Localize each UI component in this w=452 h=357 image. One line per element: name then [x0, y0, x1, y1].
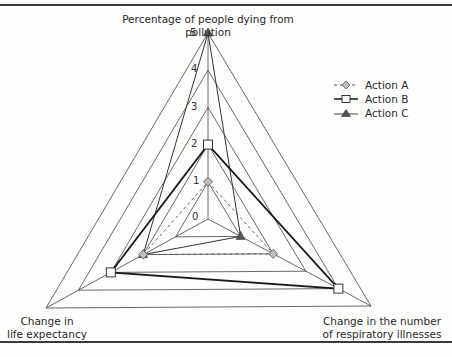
tick-4: 4 [191, 63, 197, 74]
legend-item-action-c: Action C [333, 106, 409, 120]
radar-chart [0, 0, 452, 357]
radar-spokes [46, 33, 371, 308]
legend: Action A Action B Action C [333, 78, 409, 120]
square-marker-icon [333, 94, 359, 104]
tick-1: 1 [193, 175, 199, 186]
tick-5: 5 [190, 27, 196, 38]
radar-grid [46, 33, 371, 308]
axis-title-right: Change in the number of respiratory illn… [312, 315, 452, 341]
legend-label-action-b: Action B [365, 92, 408, 106]
triangle-marker-icon [236, 231, 245, 239]
square-marker-icon [106, 268, 115, 277]
diamond-marker-icon [333, 80, 359, 90]
square-marker-icon [204, 140, 213, 149]
axis-title-top: Percentage of people dying from pollutio… [100, 13, 316, 39]
tick-0: 0 [192, 211, 198, 222]
grid-ring-5 [46, 33, 371, 308]
legend-item-action-b: Action B [333, 92, 409, 106]
square-marker-icon [334, 284, 343, 293]
series-action-b [111, 145, 339, 289]
spoke-right [208, 219, 371, 306]
triangle-marker-icon [333, 108, 359, 118]
axis-title-right-line1: Change in the number [312, 315, 452, 328]
tick-3: 3 [191, 101, 197, 112]
legend-item-action-a: Action A [333, 78, 409, 92]
spoke-left [46, 219, 208, 308]
radar-series [106, 28, 343, 293]
axis-title-left-line2: life expectancy [0, 328, 94, 341]
legend-label-action-c: Action C [365, 106, 409, 120]
tick-2: 2 [191, 138, 197, 149]
legend-label-action-a: Action A [365, 78, 408, 92]
axis-title-right-line2: of respiratory illnesses [312, 328, 452, 341]
axis-title-left: Change in life expectancy [0, 315, 94, 341]
axis-title-left-line1: Change in [0, 315, 94, 328]
